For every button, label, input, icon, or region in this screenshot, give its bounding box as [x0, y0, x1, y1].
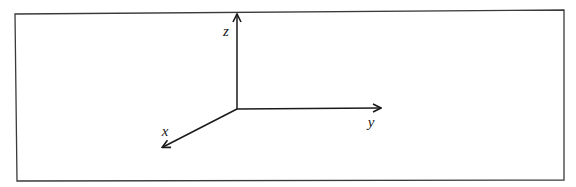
y-axis-label: y [366, 114, 375, 130]
x-axis-label: x [161, 123, 169, 139]
diagram-frame [15, 10, 564, 181]
coordinate-axes-diagram: z y x [0, 0, 576, 187]
y-axis-line [237, 108, 380, 109]
z-axis-label: z [222, 23, 229, 39]
